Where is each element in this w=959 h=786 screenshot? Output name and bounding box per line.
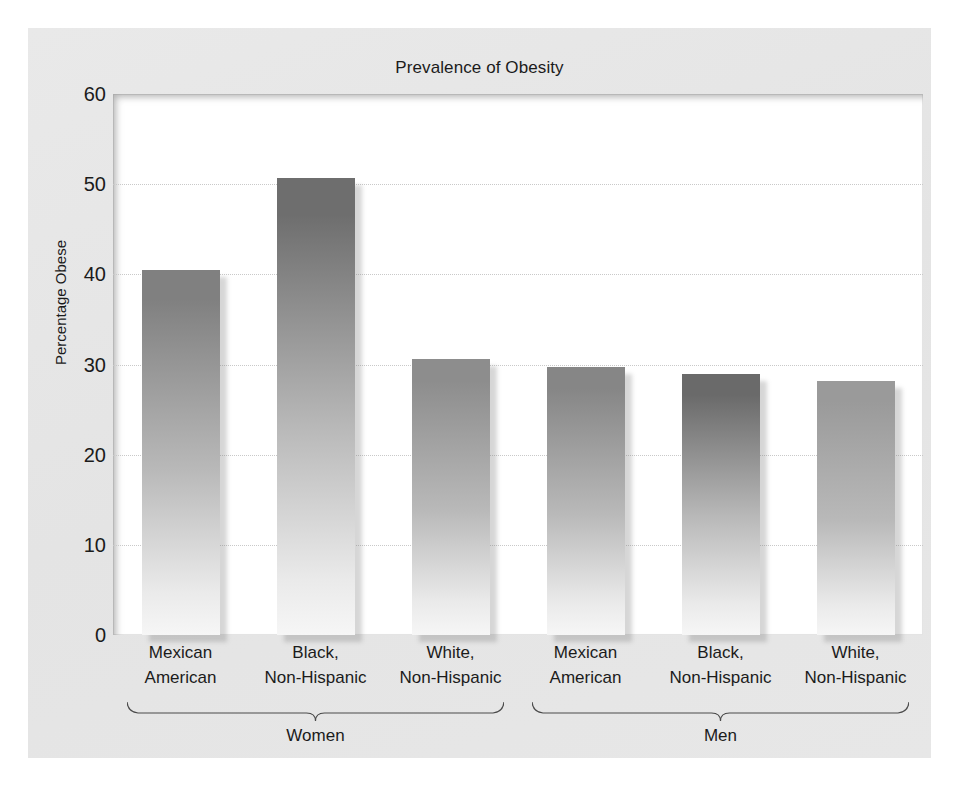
group-bracket — [532, 700, 909, 722]
x-axis-tick-label: White,Non-Hispanic — [383, 640, 518, 690]
gridline — [113, 365, 923, 366]
bar[interactable] — [817, 381, 895, 635]
plot-area — [113, 94, 923, 635]
bar-face — [412, 359, 490, 635]
x-axis-label-line1: Mexican — [113, 640, 248, 665]
group-label: Women — [127, 726, 504, 746]
x-axis-labels: MexicanAmericanBlack,Non-HispanicWhite,N… — [113, 640, 923, 698]
bar[interactable] — [142, 270, 220, 635]
x-axis-label-line1: White, — [383, 640, 518, 665]
gridline — [113, 545, 923, 546]
bar[interactable] — [277, 178, 355, 635]
x-axis-tick-label: MexicanAmerican — [113, 640, 248, 690]
x-axis-tick-label: White,Non-Hispanic — [788, 640, 923, 690]
x-axis-label-line1: Mexican — [518, 640, 653, 665]
chart-panel: Prevalence of Obesity 0102030405060 Perc… — [28, 28, 931, 758]
x-axis-tick-label: MexicanAmerican — [518, 640, 653, 690]
x-axis-tick-label: Black,Non-Hispanic — [653, 640, 788, 690]
x-axis-tick-label: Black,Non-Hispanic — [248, 640, 383, 690]
bar[interactable] — [547, 367, 625, 635]
y-axis-tick-label: 10 — [58, 533, 106, 556]
bar[interactable] — [412, 359, 490, 635]
x-axis-label-line2: American — [113, 665, 248, 690]
x-axis-label-line2: Non-Hispanic — [653, 665, 788, 690]
group-bracket — [127, 700, 504, 722]
bar[interactable] — [682, 374, 760, 635]
gridline — [113, 455, 923, 456]
x-axis-label-line1: Black, — [653, 640, 788, 665]
bar-face — [682, 374, 760, 635]
x-axis-label-line2: Non-Hispanic — [248, 665, 383, 690]
group-brackets: WomenMen — [113, 700, 923, 758]
gridline — [113, 274, 923, 275]
x-axis-label-line1: Black, — [248, 640, 383, 665]
page-title: Prevalence of Obesity — [28, 58, 931, 78]
x-axis-label-line1: White, — [788, 640, 923, 665]
x-axis-label-line2: American — [518, 665, 653, 690]
x-axis-label-line2: Non-Hispanic — [383, 665, 518, 690]
gridline — [113, 184, 923, 185]
group-label: Men — [532, 726, 909, 746]
bar-face — [277, 178, 355, 635]
bar-face — [547, 367, 625, 635]
y-axis-label: Percentage Obese — [52, 93, 69, 513]
figure: Prevalence of Obesity 0102030405060 Perc… — [0, 0, 959, 786]
bar-face — [817, 381, 895, 635]
bar-face — [142, 270, 220, 635]
x-axis-label-line2: Non-Hispanic — [788, 665, 923, 690]
y-axis-tick-label: 0 — [58, 624, 106, 647]
